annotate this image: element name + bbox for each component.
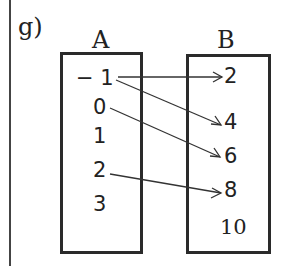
mapping-arrows — [0, 0, 285, 266]
